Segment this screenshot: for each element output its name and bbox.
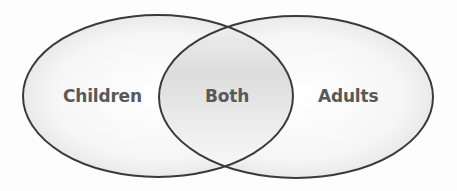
- venn-diagram: Children Both Adults: [0, 0, 457, 191]
- both-label: Both: [205, 86, 249, 106]
- adults-label: Adults: [318, 86, 378, 106]
- children-label: Children: [63, 86, 142, 106]
